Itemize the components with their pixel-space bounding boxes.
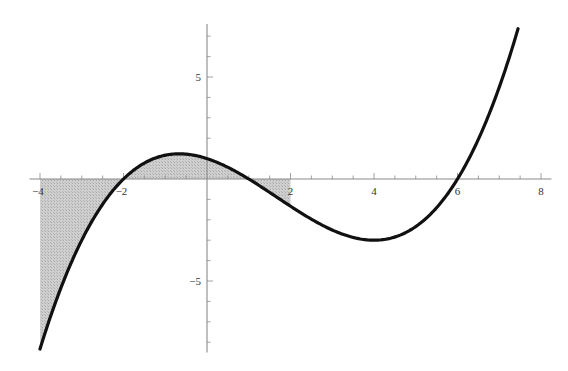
function-plot: −4−22468−55 [0,0,568,371]
x-tick-label: −2 [116,185,128,197]
x-tick-label: 8 [538,185,544,197]
x-tick-label: 2 [288,185,294,197]
x-tick-label: 6 [455,185,461,197]
y-tick-label: −5 [189,275,201,287]
x-tick-label: 4 [371,185,377,197]
y-tick-label: 5 [196,71,202,83]
x-tick-label: −4 [32,185,44,197]
